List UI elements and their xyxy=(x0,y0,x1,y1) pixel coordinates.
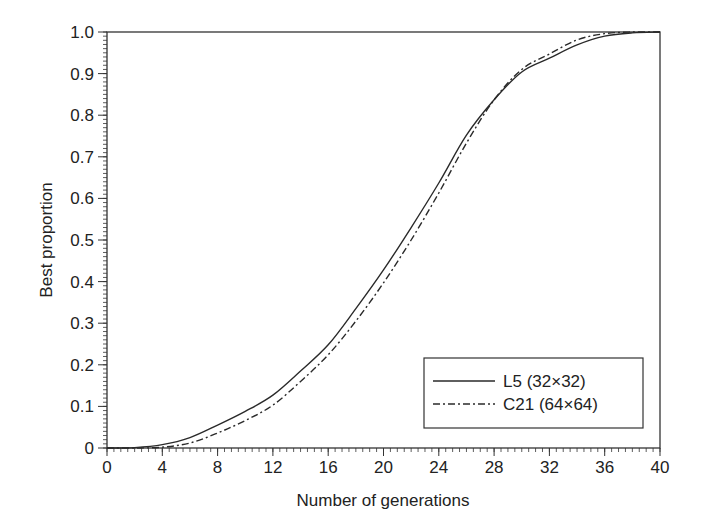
x-tick-label: 28 xyxy=(485,458,504,477)
y-tick-label: 0.3 xyxy=(70,314,94,333)
y-tick-label: 0 xyxy=(85,439,94,458)
y-tick-label: 1.0 xyxy=(70,23,94,42)
x-tick-label: 8 xyxy=(213,458,222,477)
x-tick-label: 4 xyxy=(158,458,167,477)
y-axis-ticks: 00.10.20.30.40.50.60.70.80.91.0 xyxy=(70,23,107,458)
x-tick-label: 40 xyxy=(651,458,670,477)
y-tick-label: 0.6 xyxy=(70,189,94,208)
x-axis-title: Number of generations xyxy=(297,491,470,510)
y-tick-label: 0.8 xyxy=(70,106,94,125)
x-tick-label: 32 xyxy=(540,458,559,477)
legend-box xyxy=(424,358,643,428)
x-tick-label: 24 xyxy=(429,458,448,477)
legend-label-c21: C21 (64×64) xyxy=(503,395,598,414)
x-tick-label: 36 xyxy=(595,458,614,477)
y-tick-label: 0.2 xyxy=(70,356,94,375)
x-tick-label: 12 xyxy=(263,458,282,477)
y-tick-label: 0.4 xyxy=(70,273,94,292)
y-axis-title: Best proportion xyxy=(37,182,56,297)
legend: L5 (32×32) C21 (64×64) xyxy=(424,358,643,428)
x-axis-ticks: 0481216202428323640 xyxy=(102,448,669,477)
x-tick-label: 20 xyxy=(374,458,393,477)
y-tick-label: 0.7 xyxy=(70,148,94,167)
line-chart: 0481216202428323640 00.10.20.30.40.50.60… xyxy=(0,0,702,532)
y-tick-label: 0.9 xyxy=(70,65,94,84)
y-tick-label: 0.5 xyxy=(70,231,94,250)
y-tick-label: 0.1 xyxy=(70,397,94,416)
legend-label-l5: L5 (32×32) xyxy=(503,372,586,391)
x-tick-label: 0 xyxy=(102,458,111,477)
x-tick-label: 16 xyxy=(319,458,338,477)
